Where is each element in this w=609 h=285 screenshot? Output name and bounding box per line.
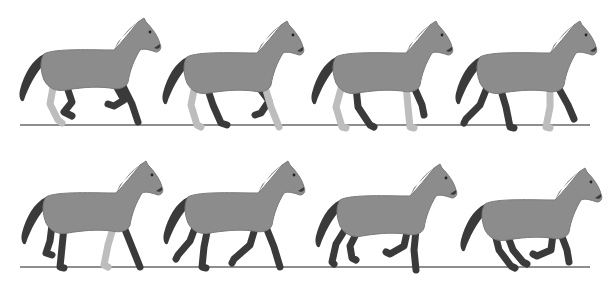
horse-frame-8	[455, 162, 605, 280]
horse-illustration-icon	[14, 12, 164, 130]
horse-frame-1	[14, 12, 164, 130]
horse-frame-4	[450, 15, 600, 133]
horse-illustration-icon	[157, 15, 307, 133]
horse-illustration-icon	[158, 155, 308, 273]
horse-frame-5	[16, 155, 166, 273]
horse-frame-2	[157, 15, 307, 133]
horse-frame-3	[306, 15, 456, 133]
horse-illustration-icon	[455, 162, 605, 280]
horse-illustration-icon	[306, 15, 456, 133]
horse-illustration-icon	[310, 158, 460, 276]
horse-illustration-icon	[450, 15, 600, 133]
horse-illustration-icon	[16, 155, 166, 273]
horse-frame-7	[310, 158, 460, 276]
horse-frame-6	[158, 155, 308, 273]
